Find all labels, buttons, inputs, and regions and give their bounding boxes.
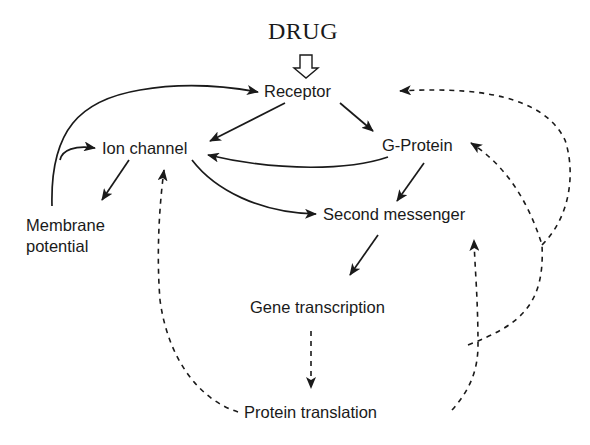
edge-receptor-to-g-protein xyxy=(340,103,373,131)
node-second-messenger: Second messenger xyxy=(323,205,465,224)
node-gene-transcription: Gene transcription xyxy=(250,298,385,317)
edge-protein-translation-to-g-protein xyxy=(468,143,542,345)
edge-protein-translation-to-second-messenger xyxy=(452,240,478,410)
drug-label: DRUG xyxy=(268,18,338,45)
node-membrane-potential-line2: potential xyxy=(26,237,88,256)
node-ion-channel: Ion channel xyxy=(102,139,187,158)
node-g-protein: G-Protein xyxy=(382,136,453,155)
edge-protein-translation-to-ion-channel xyxy=(158,170,238,412)
node-membrane-potential-line1: Membrane xyxy=(26,216,105,235)
edge-membrane-potential-to-ion-channel xyxy=(60,147,95,160)
edge-ion-channel-to-membrane-potential xyxy=(102,160,129,200)
drug-to-receptor-arrow xyxy=(294,55,318,78)
edge-g-protein-to-second-messenger xyxy=(397,163,424,201)
node-receptor: Receptor xyxy=(264,82,331,101)
edge-second-messenger-to-gene-transcription xyxy=(350,235,378,275)
edge-g-protein-to-ion-channel xyxy=(208,155,388,167)
edge-ion-channel-to-second-messenger xyxy=(192,160,316,214)
node-protein-translation: Protein translation xyxy=(244,403,377,422)
edge-receptor-to-ion-channel xyxy=(210,103,285,141)
